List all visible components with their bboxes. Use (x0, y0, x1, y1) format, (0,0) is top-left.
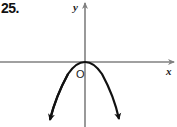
parabola-left-arrow (50, 74, 68, 120)
origin-label: O (76, 68, 85, 80)
y-axis-label: y (71, 1, 78, 13)
x-axis-label: x (165, 65, 172, 77)
graph: y x O (0, 0, 177, 127)
